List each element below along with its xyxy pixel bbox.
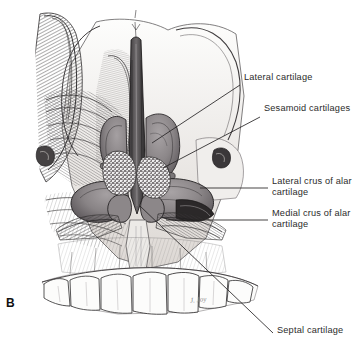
tooth: [70, 276, 100, 310]
label-lateral-cartilage: Lateral cartilage: [244, 72, 313, 83]
tooth: [44, 279, 70, 306]
stippled-cartilage-left: [103, 151, 136, 195]
tooth-central-incisor-right: [168, 272, 199, 313]
label-line-1: Lateral crus of alar: [272, 176, 352, 186]
label-line-2: cartilage: [272, 219, 308, 229]
panel-letter-b: B: [6, 296, 15, 310]
infraorbital-foramen-left: [36, 146, 54, 166]
artist-signature: J. Joy: [190, 295, 207, 305]
infraorbital-foramen-right: [212, 148, 230, 168]
label-lateral-crus-of-alar-cartilage: Lateral crus of alarcartilage: [272, 176, 358, 198]
left-maxilla-foramen-group: [36, 146, 54, 166]
label-line-1: Medial crus of alar: [272, 208, 351, 218]
label-line-2: cartilage: [272, 187, 308, 197]
tooth: [227, 280, 253, 303]
label-sesamoid-cartilages: Sesamoid cartilages: [264, 103, 350, 114]
figure-panel-b: Lateral cartilage Sesamoid cartilages La…: [0, 0, 359, 360]
label-septal-cartilage: Septal cartilage: [277, 325, 343, 336]
label-medial-crus-of-alar-cartilage: Medial crus of alarcartilage: [272, 208, 358, 230]
upper-teeth-row: [42, 268, 258, 315]
tooth: [101, 274, 132, 313]
